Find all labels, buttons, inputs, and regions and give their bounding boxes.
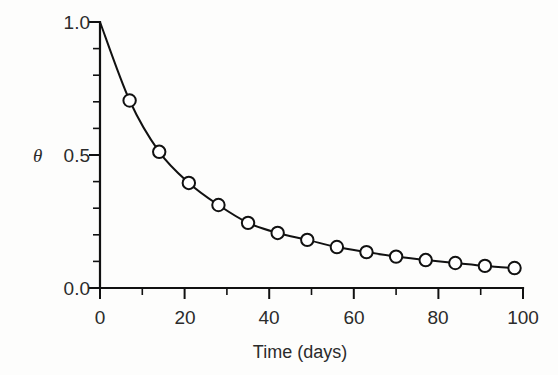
chart-figure: 0.0 0.5 1.0 θ 0 20 40 60 80 100 Time (da… [0,0,558,375]
x-tick-label-40: 40 [258,307,279,328]
data-point-marker [479,260,491,272]
y-tick-label-0.5: 0.5 [64,145,90,166]
data-point-marker [331,241,343,253]
data-point-marker [508,262,520,274]
data-point-marker [420,254,432,266]
decay-line-chart: 0.0 0.5 1.0 θ 0 20 40 60 80 100 Time (da… [0,0,558,375]
data-point-marker [271,227,283,239]
data-series [100,22,515,268]
x-tick-label-0: 0 [95,307,106,328]
data-markers [123,94,520,274]
data-point-marker [123,94,135,106]
data-point-marker [360,246,372,258]
y-axis-title: θ [33,145,42,166]
data-point-marker [153,146,165,158]
data-point-marker [301,234,313,246]
data-point-marker [390,250,402,262]
data-point-marker [183,177,195,189]
y-tick-label-0: 0.0 [64,278,90,299]
x-axis-title: Time (days) [253,342,347,362]
x-tick-label-20: 20 [174,307,195,328]
x-tick-label-100: 100 [507,307,539,328]
y-tick-label-1.0: 1.0 [64,12,90,33]
x-tick-label-80: 80 [427,307,448,328]
data-point-marker [449,257,461,269]
x-tick-label-60: 60 [343,307,364,328]
data-point-marker [212,199,224,211]
y-axis-ticks [89,22,100,288]
x-axis-ticks [100,288,523,299]
data-point-marker [242,217,254,229]
decay-curve [100,22,515,268]
